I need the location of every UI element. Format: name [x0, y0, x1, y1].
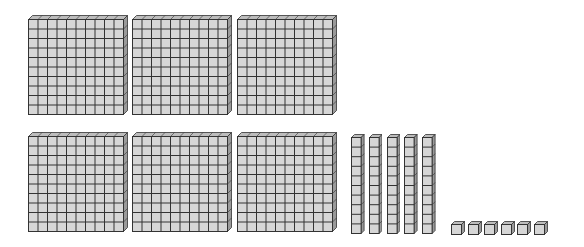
ones-cube — [451, 221, 465, 235]
ones-cube — [501, 221, 515, 235]
hundreds-flat — [237, 132, 337, 232]
hundreds-flat — [28, 15, 128, 115]
hundreds-flat — [28, 132, 128, 232]
ones-cube — [484, 221, 498, 235]
ones-cube — [468, 221, 482, 235]
hundreds-flat — [132, 15, 232, 115]
tens-rod — [422, 134, 436, 234]
tens-rod — [387, 134, 401, 234]
tens-rod — [351, 134, 365, 234]
ones-cube — [517, 221, 531, 235]
ones-cube — [534, 221, 548, 235]
tens-rod — [404, 134, 418, 234]
hundreds-flat — [132, 132, 232, 232]
tens-rod — [369, 134, 383, 234]
hundreds-flat — [237, 15, 337, 115]
